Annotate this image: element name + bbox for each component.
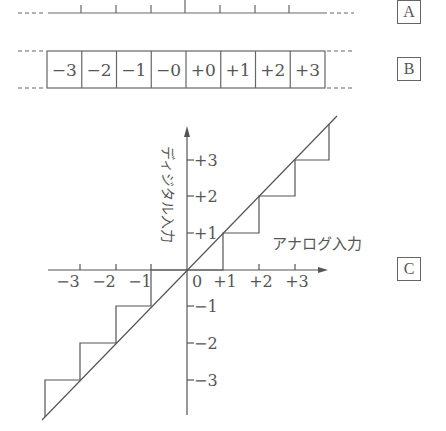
y-tick-label: −1: [194, 297, 218, 316]
x-tick-label: 0: [192, 272, 202, 291]
cell-label: +2: [260, 60, 285, 80]
cell-label: −3: [52, 60, 77, 80]
cell-label: +0: [191, 60, 216, 80]
x-axis-arrow-icon: [318, 267, 328, 273]
y-tick-label: −2: [194, 334, 218, 353]
y-tick-label: +1: [194, 224, 218, 243]
cell-label: −1: [121, 60, 146, 80]
ideal-line: [42, 116, 337, 420]
cell-label: −2: [87, 60, 112, 80]
y-tick-label: +2: [194, 187, 218, 206]
x-tick-label: +2: [249, 272, 273, 291]
y-tick-label: −3: [194, 371, 218, 390]
cell-label: +3: [295, 60, 320, 80]
x-tick-label: −2: [92, 272, 116, 291]
y-tick-label: +3: [194, 151, 218, 170]
row-a-number-line: [18, 0, 354, 13]
cell-label: +1: [226, 60, 251, 80]
y-axis-label: ディジタル入力: [160, 146, 176, 243]
quantization-chart: [42, 116, 337, 420]
x-tick-label: −3: [56, 272, 80, 291]
y-axis-arrow-icon: [184, 126, 190, 137]
label-box-a: A: [397, 0, 421, 24]
x-tick-label: +3: [285, 272, 309, 291]
x-axis-label: アナログ入力: [272, 235, 362, 253]
x-tick-label: +1: [213, 272, 237, 291]
label-box-b: B: [397, 57, 421, 81]
x-tick-label: −1: [128, 272, 152, 291]
figure-canvas: −3 −2 −1 −0 +0 +1 +2 +3: [0, 0, 446, 431]
label-box-c: C: [397, 257, 421, 281]
cell-label: −0: [156, 60, 181, 80]
